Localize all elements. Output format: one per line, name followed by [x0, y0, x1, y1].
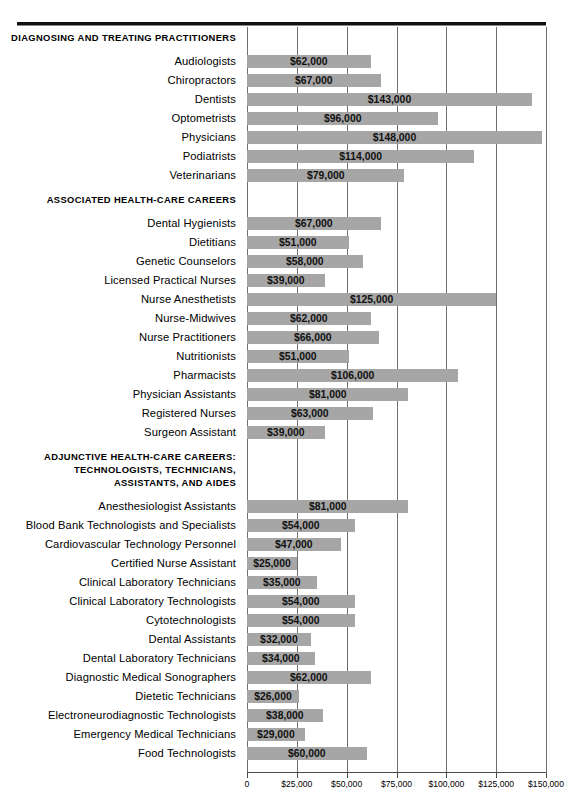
group-heading-label: Diagnosing and Treating Practitioners: [0, 31, 236, 44]
category-label: Nurse Anesthetists: [16, 292, 236, 306]
chart-row: Licensed Practical Nurses$39,000: [0, 271, 575, 290]
chart-rows: Diagnosing and Treating PractitionersAud…: [0, 27, 575, 763]
bar-wrapper: $32,000: [247, 633, 311, 646]
chart-row: Genetic Counselors$58,000: [0, 252, 575, 271]
bar-wrapper: $62,000: [247, 312, 371, 325]
chart-row: Dental Hygienists$67,000: [0, 214, 575, 233]
bar: $63,000: [247, 407, 373, 420]
category-label: Clinical Laboratory Technicians: [16, 575, 236, 589]
chart-row: Nurse Anesthetists$125,000: [0, 290, 575, 309]
bar-value-label: $63,000: [247, 407, 373, 420]
group-heading-line: Technologists, Technicians,: [0, 463, 236, 476]
chart-row: Nurse Practitioners$66,000: [0, 328, 575, 347]
bar-wrapper: $58,000: [247, 255, 363, 268]
x-tick-label: $100,000: [428, 779, 464, 789]
bar-wrapper: $62,000: [247, 55, 371, 68]
category-label: Nutritionists: [16, 349, 236, 363]
bar: $39,000: [247, 274, 325, 287]
chart-row: Emergency Medical Technicians$29,000: [0, 725, 575, 744]
bar-wrapper: $81,000: [247, 500, 408, 513]
chart-row: Dietetic Technicians$26,000: [0, 687, 575, 706]
category-label: Electroneurodiagnostic Technologists: [16, 708, 236, 722]
category-label: Nurse-Midwives: [16, 311, 236, 325]
bar-wrapper: $35,000: [247, 576, 317, 589]
bar-wrapper: $62,000: [247, 671, 371, 684]
category-label: Genetic Counselors: [16, 254, 236, 268]
x-tick-label: $25,000: [281, 779, 312, 789]
bar-value-label: $39,000: [247, 274, 325, 287]
group-heading-line: Diagnosing and Treating Practitioners: [0, 31, 236, 44]
chart-row: Pharmacists$106,000: [0, 366, 575, 385]
bar-value-label: $51,000: [247, 350, 349, 363]
chart-row: Nutritionists$51,000: [0, 347, 575, 366]
bar: $62,000: [247, 312, 371, 325]
bar-value-label: $96,000: [247, 112, 438, 125]
chart-row: Chiropractors$67,000: [0, 71, 575, 90]
bar-wrapper: $114,000: [247, 150, 474, 163]
category-label: Clinical Laboratory Technologists: [16, 594, 236, 608]
bar-value-label: $32,000: [247, 633, 311, 646]
chart-row: Certified Nurse Assistant$25,000: [0, 554, 575, 573]
x-tick: [297, 773, 298, 778]
bar-value-label: $81,000: [247, 388, 408, 401]
bar: $26,000: [247, 690, 299, 703]
bar-wrapper: $51,000: [247, 236, 349, 249]
category-label: Dental Laboratory Technicians: [16, 651, 236, 665]
bar: $79,000: [247, 169, 404, 182]
category-label: Surgeon Assistant: [16, 425, 236, 439]
group-heading-line: Assistants, and Aides: [0, 476, 236, 489]
bar: $54,000: [247, 595, 355, 608]
bar: $25,000: [247, 557, 297, 570]
bar-wrapper: $54,000: [247, 519, 355, 532]
salary-bar-chart: Diagnosing and Treating PractitionersAud…: [0, 0, 575, 803]
bar: $143,000: [247, 93, 532, 106]
chart-row: Dietitians$51,000: [0, 233, 575, 252]
x-tick: [347, 773, 348, 778]
bar-value-label: $66,000: [247, 331, 379, 344]
category-label: Emergency Medical Technicians: [16, 727, 236, 741]
group-heading-row: Adjunctive Health-Care Careers:Technolog…: [0, 442, 575, 497]
category-label: Dietetic Technicians: [16, 689, 236, 703]
bar-value-label: $58,000: [247, 255, 363, 268]
bar-wrapper: $96,000: [247, 112, 438, 125]
bar: $35,000: [247, 576, 317, 589]
x-tick-label: $125,000: [478, 779, 514, 789]
chart-row: Audiologists$62,000: [0, 52, 575, 71]
x-tick-label: $150,000: [528, 779, 564, 789]
x-tick: [247, 773, 248, 778]
group-heading-line: Adjunctive Health-Care Careers:: [0, 450, 236, 463]
bar-wrapper: $60,000: [247, 747, 367, 760]
chart-row: Electroneurodiagnostic Technologists$38,…: [0, 706, 575, 725]
bar-value-label: $62,000: [247, 671, 371, 684]
category-label: Physician Assistants: [16, 387, 236, 401]
bar: $54,000: [247, 614, 355, 627]
group-heading-line: Associated Health-Care Careers: [0, 193, 236, 206]
category-label: Veterinarians: [16, 168, 236, 182]
category-label: Blood Bank Technologists and Specialists: [16, 518, 236, 532]
chart-row: Clinical Laboratory Technologists$54,000: [0, 592, 575, 611]
bar-value-label: $35,000: [247, 576, 317, 589]
chart-row: Podiatrists$114,000: [0, 147, 575, 166]
bar-wrapper: $63,000: [247, 407, 373, 420]
chart-row: Anesthesiologist Assistants$81,000: [0, 497, 575, 516]
chart-row: Cardiovascular Technology Personnel$47,0…: [0, 535, 575, 554]
bar: $62,000: [247, 55, 371, 68]
bar: $47,000: [247, 538, 341, 551]
group-heading-label: Adjunctive Health-Care Careers:Technolog…: [0, 450, 236, 489]
bar-value-label: $62,000: [247, 312, 371, 325]
category-label: Cytotechnologists: [16, 613, 236, 627]
chart-row: Surgeon Assistant$39,000: [0, 423, 575, 442]
bar: $29,000: [247, 728, 305, 741]
chart-row: Physician Assistants$81,000: [0, 385, 575, 404]
bar-value-label: $148,000: [247, 131, 542, 144]
chart-row: Food Technologists$60,000: [0, 744, 575, 763]
chart-row: Veterinarians$79,000: [0, 166, 575, 185]
bar: $67,000: [247, 217, 381, 230]
bar-wrapper: $148,000: [247, 131, 542, 144]
category-label: Nurse Practitioners: [16, 330, 236, 344]
bar: $38,000: [247, 709, 323, 722]
bar: $34,000: [247, 652, 315, 665]
bar-wrapper: $143,000: [247, 93, 532, 106]
bar-wrapper: $54,000: [247, 614, 355, 627]
bar-wrapper: $67,000: [247, 74, 381, 87]
